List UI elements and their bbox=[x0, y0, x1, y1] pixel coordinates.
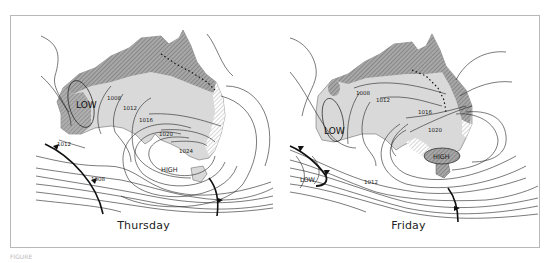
friday-panel: LOW LOW HIGH 1008 1012 1016 1020 1012 Fr… bbox=[276, 16, 541, 247]
low-label: LOW bbox=[76, 100, 97, 110]
isobar-label: 1012 bbox=[57, 141, 71, 147]
isobar-label: 1008 bbox=[91, 176, 105, 182]
figure-caption: FIGURE bbox=[10, 253, 210, 259]
thursday-panel: LOW HIGH 1008 1012 1016 1020 1024 1012 1… bbox=[11, 16, 276, 247]
isobar-label: 1008 bbox=[356, 90, 370, 96]
high-label: HIGH bbox=[433, 153, 450, 161]
isobar-label: 1012 bbox=[123, 105, 137, 111]
isobar-label: 1024 bbox=[179, 148, 193, 154]
low-label: LOW bbox=[324, 126, 345, 136]
low-label-secondary: LOW bbox=[300, 176, 316, 184]
isobar-label: 1008 bbox=[107, 95, 121, 101]
thursday-weather-map: LOW HIGH 1008 1012 1016 1020 1024 1012 1… bbox=[11, 16, 276, 247]
isobar-label: 1012 bbox=[376, 97, 390, 103]
isobar-label: 1012 bbox=[364, 179, 378, 185]
friday-weather-map: LOW LOW HIGH 1008 1012 1016 1020 1012 bbox=[276, 16, 541, 247]
high-label: HIGH bbox=[161, 166, 178, 174]
day-label-thursday: Thursday bbox=[11, 219, 276, 232]
isobar-label: 1020 bbox=[159, 131, 173, 137]
cold-front-east bbox=[209, 178, 223, 216]
isobar-label: 1020 bbox=[428, 127, 442, 133]
figure-frame: LOW HIGH 1008 1012 1016 1020 1024 1012 1… bbox=[10, 15, 540, 248]
day-label-friday: Friday bbox=[276, 219, 541, 232]
isobar-label: 1016 bbox=[139, 117, 153, 123]
isobar-label: 1016 bbox=[418, 109, 432, 115]
